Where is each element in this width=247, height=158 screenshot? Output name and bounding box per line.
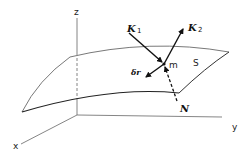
z-axis-label: z — [74, 7, 79, 17]
surface-label: S — [193, 58, 199, 68]
k2-label: K 2 — [187, 22, 202, 34]
surface-left-edge — [22, 57, 70, 112]
k1-symbol: K — [126, 23, 137, 34]
surface-front-edge — [22, 92, 179, 112]
x-axis — [21, 115, 77, 144]
normal-label: N — [179, 103, 190, 114]
point-label: m — [169, 60, 178, 70]
mass-point — [162, 62, 165, 65]
x-axis-label: x — [13, 141, 19, 151]
k1-label: K 1 — [126, 23, 141, 35]
normal-arrow — [165, 67, 177, 101]
delta-r-label: δr — [130, 67, 141, 77]
y-axis-label: y — [232, 122, 238, 132]
surface-right-edge — [179, 52, 229, 93]
delta-r-arrow — [146, 64, 164, 77]
y-axis — [77, 115, 222, 117]
k2-symbol: K — [187, 22, 198, 33]
k1-arrow — [129, 33, 162, 62]
k2-subscript: 2 — [198, 26, 202, 34]
k1-subscript: 1 — [137, 27, 141, 35]
constraint-surface-diagram: z y x S m K 1 K 2 δr N — [0, 0, 247, 158]
surface-s — [22, 46, 229, 112]
